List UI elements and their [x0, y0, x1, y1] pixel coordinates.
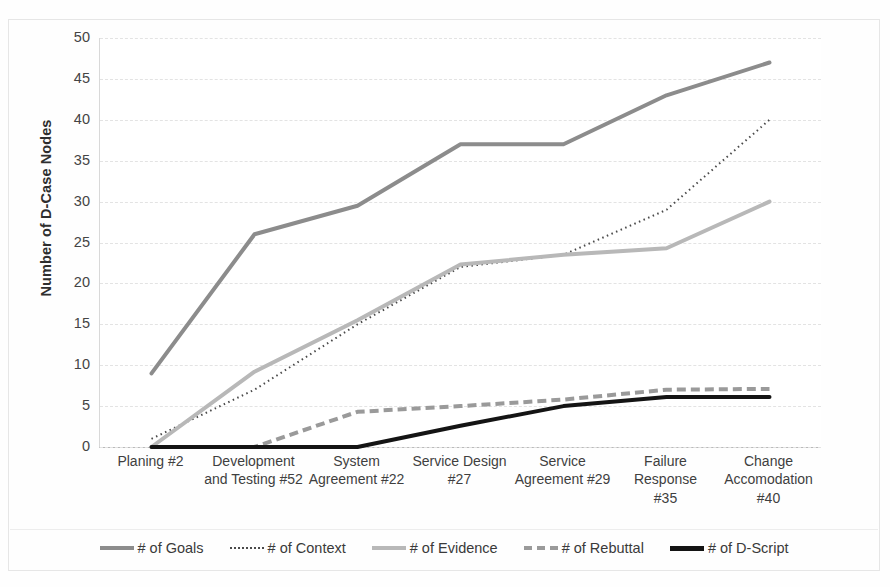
y-axis-tick-labels: 05101520253035404550	[44, 0, 90, 587]
y-tick-label: 0	[44, 439, 90, 454]
chart-legend: # of Goals# of Context# of Evidence# of …	[10, 529, 878, 566]
x-tick-label-line: Service Design	[408, 452, 511, 470]
legend-label: # of Context	[268, 540, 346, 556]
x-tick-label-line: Service	[511, 452, 614, 470]
x-tick-label-line: #40	[717, 489, 820, 507]
legend-label: # of Goals	[138, 540, 204, 556]
legend-label: # of Evidence	[410, 540, 498, 556]
legend-swatch-icon	[230, 547, 264, 549]
series-line	[152, 63, 770, 374]
x-tick-label: Failure Response#35	[614, 452, 717, 507]
x-tick-label: Planing #2	[99, 452, 202, 470]
y-tick-label: 35	[44, 153, 90, 168]
legend-item[interactable]: # of Context	[230, 540, 346, 556]
y-tick-label: 30	[44, 194, 90, 209]
y-tick-label: 10	[44, 357, 90, 372]
x-tick-label-line: Agreement #22	[305, 470, 408, 488]
chart-figure: Number of D-Case Nodes 05101520253035404…	[0, 0, 890, 587]
x-tick-label-line: #35	[614, 489, 717, 507]
y-tick-label: 25	[44, 235, 90, 250]
legend-label: # of D-Script	[708, 540, 789, 556]
x-tick-label: ChangeAccomodation#40	[717, 452, 820, 507]
y-tick-label: 45	[44, 71, 90, 86]
legend-item[interactable]: # of Evidence	[372, 540, 498, 556]
legend-swatch-icon	[524, 546, 558, 550]
legend-item[interactable]: # of Goals	[100, 540, 204, 556]
x-tick-label-line: and Testing #52	[202, 470, 305, 488]
legend-swatch-icon	[100, 546, 134, 550]
legend-swatch-icon	[670, 546, 704, 551]
x-tick-label-line: Change	[717, 452, 820, 470]
x-tick-label-line: System	[305, 452, 408, 470]
y-tick-label: 5	[44, 398, 90, 413]
y-tick-label: 15	[44, 316, 90, 331]
legend-label: # of Rebuttal	[562, 540, 644, 556]
x-tick-label: ServiceAgreement #29	[511, 452, 614, 489]
x-tick-label: Developmentand Testing #52	[202, 452, 305, 489]
legend-item[interactable]: # of Rebuttal	[524, 540, 644, 556]
series-lines	[100, 38, 821, 447]
x-tick-label-line: Planing #2	[99, 452, 202, 470]
series-line	[152, 202, 770, 447]
x-tick-label-line: #27	[408, 470, 511, 488]
x-tick-label: SystemAgreement #22	[305, 452, 408, 489]
plot-area	[99, 38, 821, 448]
x-tick-label-line: Development	[202, 452, 305, 470]
x-tick-label: Service Design#27	[408, 452, 511, 489]
y-tick-label: 40	[44, 112, 90, 127]
x-tick-label-line: Failure Response	[614, 452, 717, 489]
legend-item[interactable]: # of D-Script	[670, 540, 789, 556]
legend-swatch-icon	[372, 546, 406, 550]
y-tick-label: 20	[44, 275, 90, 290]
x-tick-label-line: Agreement #29	[511, 470, 614, 488]
y-tick-label: 50	[44, 30, 90, 45]
x-axis-tick-labels: Planing #2Developmentand Testing #52Syst…	[99, 452, 820, 524]
x-tick-label-line: Accomodation	[717, 470, 820, 488]
series-line	[152, 120, 770, 439]
